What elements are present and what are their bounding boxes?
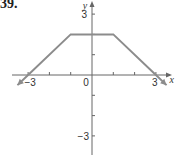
- y-axis-label: y: [82, 0, 88, 11]
- chart: −3033−3xy: [0, 0, 176, 157]
- x-tick-label: −3: [24, 77, 36, 88]
- y-axis-arrow-icon: [90, 1, 95, 7]
- y-tick-label: −3: [78, 131, 90, 142]
- x-tick-label: 3: [152, 77, 158, 88]
- origin-label: 0: [83, 77, 89, 88]
- x-axis-label: x: [169, 74, 175, 85]
